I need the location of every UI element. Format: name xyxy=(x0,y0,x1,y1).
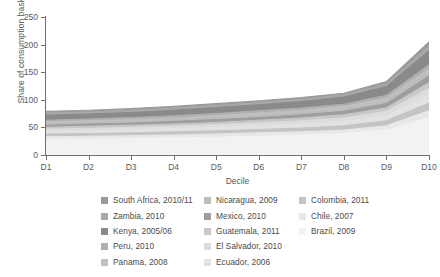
legend-item[interactable]: El Salvador, 2010 xyxy=(204,239,299,254)
legend-item-label: Kenya, 2005/06 xyxy=(113,227,172,236)
area-series-svg xyxy=(46,17,429,155)
legend-item-label: Ecuador, 2006 xyxy=(216,258,270,267)
legend-swatch-icon xyxy=(204,197,211,204)
x-tick-label: D10 xyxy=(414,162,440,172)
legend-item[interactable]: Peru, 2010 xyxy=(101,239,204,254)
legend-item-label: South Africa, 2010/11 xyxy=(113,196,193,205)
y-tick-label: 150 xyxy=(0,68,38,76)
x-axis-line xyxy=(45,155,430,156)
y-tick-label: 250 xyxy=(0,13,38,21)
x-tick-label: D8 xyxy=(329,162,359,172)
chart-legend: South Africa, 2010/11Zambia, 2010Kenya, … xyxy=(101,193,431,273)
x-tick xyxy=(386,156,387,160)
legend-column: Nicaragua, 2009Mexico, 2010Guatemala, 20… xyxy=(204,193,299,273)
x-tick-label: D9 xyxy=(371,162,401,172)
y-tick-label: 100 xyxy=(0,96,38,104)
x-tick xyxy=(301,156,302,160)
legend-swatch-icon xyxy=(204,259,211,266)
x-tick xyxy=(89,156,90,160)
y-tick-label: 200 xyxy=(0,41,38,49)
legend-item-label: Panama, 2008 xyxy=(113,258,168,267)
legend-item[interactable]: Kenya, 2005/06 xyxy=(101,224,204,239)
legend-item-label: Chile, 2007 xyxy=(311,212,354,221)
x-tick xyxy=(174,156,175,160)
legend-item[interactable]: Chile, 2007 xyxy=(299,208,409,223)
legend-swatch-icon xyxy=(101,259,108,266)
legend-item-label: El Salvador, 2010 xyxy=(216,242,282,251)
y-tick-label: 50 xyxy=(0,123,38,131)
legend-column: South Africa, 2010/11Zambia, 2010Kenya, … xyxy=(101,193,204,273)
legend-swatch-icon xyxy=(204,228,211,235)
legend-item[interactable]: Ecuador, 2006 xyxy=(204,255,299,270)
x-tick xyxy=(344,156,345,160)
legend-swatch-icon xyxy=(299,228,306,235)
legend-swatch-icon xyxy=(101,213,108,220)
legend-item[interactable]: Nicaragua, 2009 xyxy=(204,193,299,208)
legend-swatch-icon xyxy=(204,213,211,220)
legend-swatch-icon xyxy=(101,228,108,235)
legend-column: Colombia, 2011Chile, 2007Brazil, 2009 xyxy=(299,193,409,273)
legend-swatch-icon xyxy=(101,197,108,204)
x-axis-title: Decile xyxy=(46,176,429,186)
legend-item-label: Peru, 2010 xyxy=(113,242,154,251)
legend-swatch-icon xyxy=(299,197,306,204)
x-tick xyxy=(259,156,260,160)
x-tick-label: D7 xyxy=(286,162,316,172)
legend-item[interactable]: Brazil, 2009 xyxy=(299,224,409,239)
x-tick-label: D6 xyxy=(244,162,274,172)
plot-area xyxy=(46,17,429,155)
legend-item[interactable]: Colombia, 2011 xyxy=(299,193,409,208)
x-tick-label: D3 xyxy=(116,162,146,172)
x-tick xyxy=(429,156,430,160)
y-tick-label: 0 xyxy=(0,151,38,159)
legend-item[interactable]: Mexico, 2010 xyxy=(204,208,299,223)
legend-item[interactable]: Guatemala, 2011 xyxy=(204,224,299,239)
legend-swatch-icon xyxy=(204,243,211,250)
legend-item-label: Colombia, 2011 xyxy=(311,196,369,205)
x-tick-label: D1 xyxy=(31,162,61,172)
legend-item-label: Guatemala, 2011 xyxy=(216,227,280,236)
legend-item[interactable]: Panama, 2008 xyxy=(101,255,204,270)
legend-item-label: Nicaragua, 2009 xyxy=(216,196,278,205)
legend-item-label: Brazil, 2009 xyxy=(311,227,355,236)
x-tick xyxy=(131,156,132,160)
legend-swatch-icon xyxy=(299,213,306,220)
x-tick-label: D4 xyxy=(159,162,189,172)
legend-swatch-icon xyxy=(101,243,108,250)
x-tick-label: D2 xyxy=(74,162,104,172)
legend-item-label: Mexico, 2010 xyxy=(216,212,266,221)
legend-item[interactable]: South Africa, 2010/11 xyxy=(101,193,204,208)
legend-item-label: Zambia, 2010 xyxy=(113,212,164,221)
legend-item[interactable]: Zambia, 2010 xyxy=(101,208,204,223)
x-tick-label: D5 xyxy=(201,162,231,172)
x-tick xyxy=(216,156,217,160)
x-tick xyxy=(46,156,47,160)
chart-figure: Share of consumption basket 050100150200… xyxy=(0,0,440,277)
